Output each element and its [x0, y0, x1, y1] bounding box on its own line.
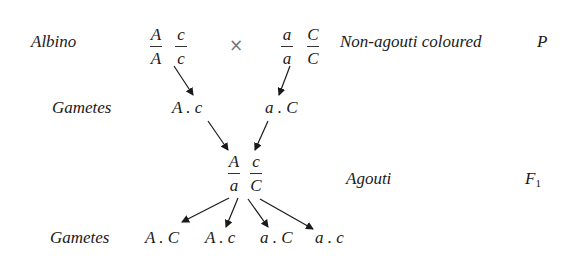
arrow-icon [255, 121, 268, 150]
arrow-icon [182, 198, 229, 222]
arrow-icon [208, 121, 228, 150]
inheritance-arrows [0, 0, 580, 262]
arrow-icon [279, 66, 290, 95]
arrow-icon [260, 199, 313, 229]
arrow-icon [174, 66, 193, 95]
arrow-icon [226, 198, 238, 227]
arrow-icon [248, 199, 268, 227]
